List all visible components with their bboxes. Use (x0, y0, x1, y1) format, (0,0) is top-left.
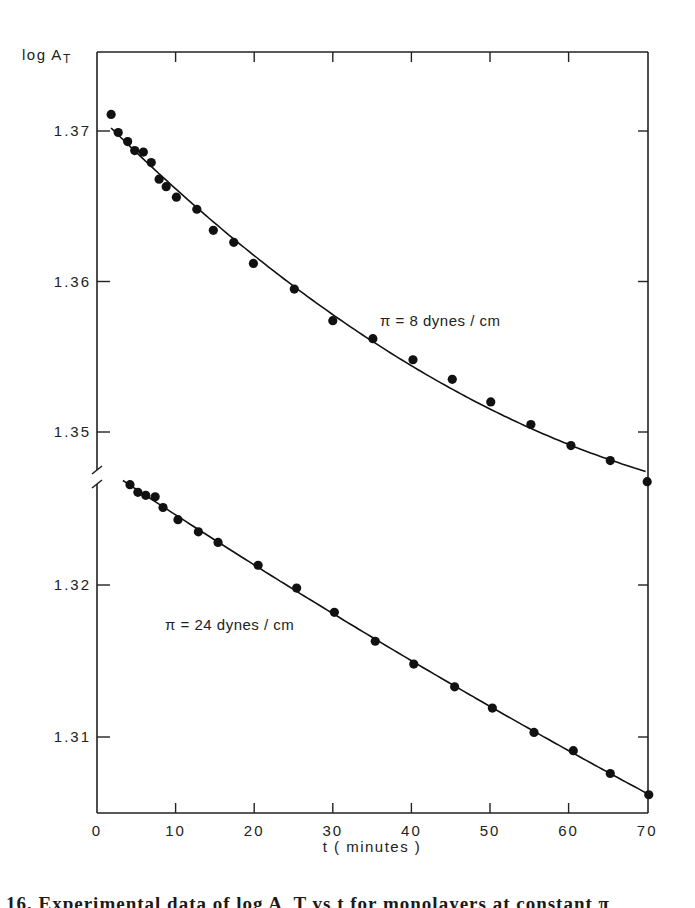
data-point (133, 488, 142, 497)
x-tick-label: 40 (401, 822, 422, 839)
data-point (249, 259, 258, 268)
data-point (141, 491, 150, 500)
data-point (486, 397, 495, 406)
data-point (254, 561, 263, 570)
y-axis-title: log AT (22, 46, 72, 66)
data-point (450, 682, 459, 691)
series-label-lower: π = 24 dynes / cm (165, 616, 294, 633)
data-point (328, 316, 337, 325)
data-point (569, 746, 578, 755)
fit-curve-lower (123, 481, 646, 793)
data-point (292, 583, 301, 592)
y-tick-label: 1.32 (54, 576, 91, 593)
data-point (526, 420, 535, 429)
data-point (154, 175, 163, 184)
data-point (229, 238, 238, 247)
data-point (123, 137, 132, 146)
data-points-upper (107, 110, 652, 486)
chart: 0102030405060701.351.361.371.311.32 log … (0, 0, 695, 908)
data-point (606, 769, 615, 778)
data-point (606, 456, 615, 465)
data-point (290, 284, 299, 293)
x-tick-label: 20 (244, 822, 265, 839)
data-point (172, 193, 181, 202)
data-point (173, 515, 182, 524)
data-point (213, 538, 222, 547)
y-tick-label: 1.37 (54, 122, 91, 139)
data-point (448, 375, 457, 384)
data-points-lower (125, 480, 653, 799)
x-tick-label: 30 (322, 822, 343, 839)
data-point (130, 146, 139, 155)
data-point (566, 441, 575, 450)
data-point (643, 477, 652, 486)
figure-caption: 16. Experimental data of log A_T vs t fo… (0, 893, 695, 908)
data-point (114, 128, 123, 137)
data-point (107, 110, 116, 119)
data-point (158, 503, 167, 512)
data-point (488, 704, 497, 713)
y-tick-label: 1.31 (54, 728, 91, 745)
x-tick-label: 50 (480, 822, 501, 839)
data-point (139, 147, 148, 156)
fit-curve-upper (111, 128, 646, 471)
data-point (330, 608, 339, 617)
x-axis-title: t ( minutes ) (323, 838, 422, 855)
x-tick-label: 70 (637, 822, 658, 839)
data-point (194, 527, 203, 536)
data-point (151, 492, 160, 501)
y-tick-label: 1.36 (54, 273, 91, 290)
ticks (97, 52, 648, 813)
data-point (162, 182, 171, 191)
tick-labels: 0102030405060701.351.361.371.311.32 (54, 122, 658, 839)
x-tick-label: 0 (92, 822, 102, 839)
series-label-upper: π = 8 dynes / cm (380, 312, 500, 329)
data-point (209, 226, 218, 235)
data-point (371, 637, 380, 646)
x-tick-label: 60 (558, 822, 579, 839)
data-point (147, 158, 156, 167)
data-point (192, 205, 201, 214)
data-point (529, 728, 538, 737)
data-point (368, 334, 377, 343)
data-point (408, 355, 417, 364)
y-tick-label: 1.35 (54, 423, 91, 440)
data-point (409, 659, 418, 668)
x-tick-label: 10 (165, 822, 186, 839)
data-point (125, 480, 134, 489)
data-point (644, 790, 653, 799)
axis-break-icon (92, 466, 102, 488)
plot-frame (97, 52, 648, 813)
